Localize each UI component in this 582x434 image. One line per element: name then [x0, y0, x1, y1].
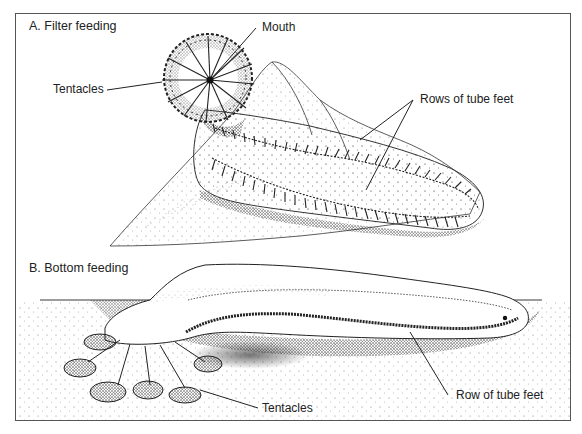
- label-mouth: Mouth: [262, 20, 295, 34]
- panel-b-title: B. Bottom feeding: [29, 261, 128, 275]
- label-rows-of-tube-feet: Rows of tube feet: [420, 92, 513, 106]
- panel-a-title: A. Filter feeding: [29, 19, 117, 33]
- sea-cucumber-illustration: [0, 0, 582, 434]
- label-tentacles-b: Tentacles: [262, 401, 313, 415]
- sea-cucumber-body-b: [105, 264, 528, 344]
- label-tentacles-a: Tentacles: [53, 82, 104, 96]
- leader-tentacles-a: [107, 82, 162, 90]
- label-row-of-tube-feet: Row of tube feet: [456, 388, 543, 402]
- leader-tubefeet-a1: [360, 100, 413, 140]
- panel-a-illustration: [107, 28, 485, 246]
